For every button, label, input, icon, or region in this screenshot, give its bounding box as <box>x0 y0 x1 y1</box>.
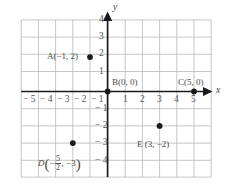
point-label-D-comma: , <box>62 158 64 168</box>
point-label-D-open-paren: ( <box>45 156 50 172</box>
point-label-D-fraction: 52 <box>55 155 61 172</box>
x-tick-minus-5: − 5 <box>23 95 35 105</box>
point-label-D-letter: D <box>38 158 45 168</box>
point-label-B: B(0, 0) <box>112 78 138 87</box>
y-tick-1: 1 <box>99 67 104 77</box>
point-label-D-close-paren: ) <box>76 156 81 172</box>
fraction-denominator: 2 <box>55 164 61 172</box>
y-tick-minus-4: − 4 <box>95 156 107 166</box>
point-label-D-second-coord: −3 <box>66 158 76 168</box>
x-tick-3: 3 <box>157 95 162 105</box>
x-tick-minus-4: − 4 <box>40 95 52 105</box>
y-tick-minus-2: − 2 <box>95 121 107 131</box>
point-label-A: A(−1, 2) <box>47 52 78 61</box>
y-axis-label: y <box>113 3 117 13</box>
point-label-D: D(−52, −3) <box>38 155 81 172</box>
y-tick-4: 4 <box>99 15 104 25</box>
point-label-D-sign: − <box>50 158 55 168</box>
point-marker-D <box>70 140 76 146</box>
point-marker-E <box>157 123 163 129</box>
y-tick-3: 3 <box>99 32 104 42</box>
x-tick-5: 5 <box>191 95 196 105</box>
x-tick-4: 4 <box>174 95 179 105</box>
point-marker-A <box>87 54 93 60</box>
point-label-C: C(5, 0) <box>178 78 204 87</box>
x-tick-minus-3: − 3 <box>57 95 69 105</box>
x-axis-label: x <box>216 86 220 96</box>
y-axis-arrowhead <box>103 11 112 21</box>
y-tick-minus-1: − 1 <box>95 104 107 114</box>
x-tick-minus-2: − 2 <box>74 95 86 105</box>
y-tick-minus-3: − 3 <box>95 138 107 148</box>
coordinate-grid-svg <box>0 0 238 192</box>
x-tick-1: 1 <box>123 95 128 105</box>
y-tick-2: 2 <box>99 49 104 59</box>
coordinate-plane-figure: y x − 5 − 4 − 3 − 2 − 1 1 2 3 4 5 4 3 2 … <box>0 0 238 192</box>
point-marker-B <box>105 89 111 95</box>
x-tick-2: 2 <box>140 95 145 105</box>
point-label-E: E (3, −2) <box>137 140 169 149</box>
